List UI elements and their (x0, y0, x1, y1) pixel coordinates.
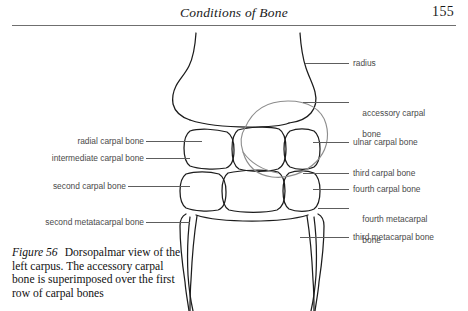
leader-radial-carpal-bone (146, 141, 202, 142)
radius-left-border (173, 33, 196, 120)
label-ulnar-carpal-bone: ulnar carpal bone (353, 137, 463, 148)
figure-caption-line-3: bone is superimposed over the first (12, 273, 175, 286)
label-fourth-metacarpal-bone-line1: fourth metacarpal (362, 214, 427, 224)
intermediate-carpal-bone-outline (232, 127, 286, 171)
leader-third-carpal-bone (303, 173, 349, 174)
figure-caption-line-4: row of carpal bones (12, 287, 104, 300)
leader-intermediate-carpal-bone (146, 158, 190, 159)
label-second-carpal-bone: second carpal bone (16, 181, 126, 192)
figure-caption: Figure 56Dorsopalmar view of the left ca… (12, 246, 242, 300)
third-metacarpal-proximal-surface (196, 215, 308, 221)
label-third-carpal-bone: third carpal bone (353, 168, 463, 179)
figure-caption-line-2: left carpus. The accessory carpal (12, 260, 163, 273)
label-fourth-carpal-bone: fourth carpal bone (353, 184, 463, 195)
figure-number: Figure 56 (12, 246, 58, 259)
leader-fourth-carpal-bone (313, 189, 349, 190)
leader-second-carpal-bone (128, 186, 190, 187)
leader-ulnar-carpal-bone (313, 142, 349, 143)
label-accessory-carpal-bone-line1: accessory carpal (362, 108, 425, 118)
label-fourth-metacarpal-bone: fourth metacarpal bone (353, 203, 463, 256)
leader-fourth-metacarpal-bone (318, 208, 349, 209)
label-third-metacarpal-bone: third metacarpal bone (353, 232, 468, 243)
third-metacarpal-right-shaft (307, 216, 314, 311)
leader-accessory-carpal-bone (303, 102, 349, 103)
radius-distal-surface (190, 120, 289, 127)
label-radius: radius (353, 58, 463, 69)
third-carpal-bone-outline (222, 170, 285, 212)
radial-carpal-bone-outline (184, 129, 234, 169)
radius-right-border (289, 33, 316, 123)
label-second-metatacarpal-bone: second metatacarpal bone (14, 217, 144, 228)
second-carpal-bone-outline (180, 172, 226, 211)
label-intermediate-carpal-bone: intermediate carpal bone (14, 153, 144, 164)
leader-radius (305, 63, 349, 64)
leader-third-metacarpal-bone (300, 237, 349, 238)
label-radial-carpal-bone: radial carpal bone (24, 136, 144, 147)
leader-second-metatacarpal-bone (146, 222, 190, 223)
book-page: Conditions of Bone 155 (0, 0, 468, 311)
figure-caption-line-1: Dorsopalmar view of the (65, 246, 181, 259)
